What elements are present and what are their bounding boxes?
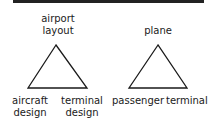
- triangle-right: [129, 45, 187, 88]
- label-line: passenger: [112, 95, 160, 107]
- label-aircraft-design: aircraft design: [10, 95, 50, 119]
- label-airport-layout: airport layout: [38, 13, 78, 37]
- label-line: terminal: [60, 95, 104, 107]
- label-line: aircraft: [10, 95, 50, 107]
- label-line: airport: [38, 13, 78, 25]
- label-plane: plane: [140, 25, 176, 37]
- label-line: layout: [38, 25, 78, 37]
- label-terminal: terminal: [166, 95, 206, 107]
- label-line: design: [10, 107, 50, 119]
- label-line: terminal: [166, 95, 206, 107]
- label-line: plane: [140, 25, 176, 37]
- label-passenger: passenger: [112, 95, 160, 107]
- label-terminal-design: terminal design: [60, 95, 104, 119]
- triangle-left: [28, 45, 87, 88]
- label-line: design: [60, 107, 104, 119]
